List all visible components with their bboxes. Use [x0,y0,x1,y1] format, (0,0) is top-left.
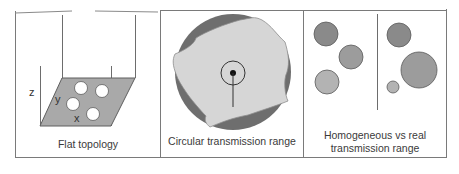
range-circle-light [315,70,339,94]
real-group [387,23,437,93]
homogeneous-group [314,22,363,94]
panel-circular-transmission-range: Circular transmission range [168,14,296,147]
x-axis-label: x [74,112,80,124]
y-axis-label: y [55,93,61,105]
range-circle-medium [339,45,363,69]
range-circle-dark [387,23,411,47]
range-circle-medium-large [401,52,437,88]
node-circle [87,108,100,121]
z-axis-label: z [29,86,35,98]
range-circle-light-small [387,81,399,93]
node-circle [67,98,80,111]
panel-flat-topology: z y x Flat topology [15,11,158,150]
box-top-edge-right [95,11,158,12]
caption-flat-topology: Flat topology [58,138,119,150]
box-top-edge-left [15,11,72,13]
node-circle [96,85,109,98]
network-topology-figure: z y x Flat topology Circular transmissio… [0,0,459,174]
range-circle-dark [314,22,338,46]
panel-homogeneous-vs-real: Homogeneous vs real transmission range [314,14,437,154]
node-circle [75,82,88,95]
caption-homogeneous-vs-real-line1: Homogeneous vs real [324,129,426,141]
caption-homogeneous-vs-real-line2: transmission range [331,142,420,154]
caption-circular-transmission-range: Circular transmission range [168,135,296,147]
